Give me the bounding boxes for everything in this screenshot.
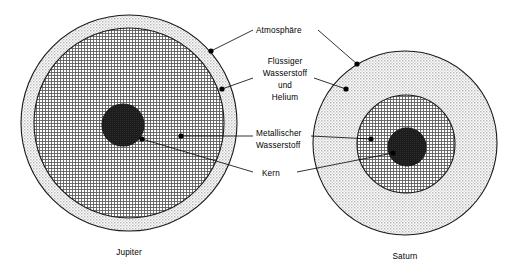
- callout-dot-core-jupiter: [139, 136, 144, 141]
- diagram-canvas: Jupiter Saturn: [0, 0, 514, 272]
- label-liquid-hydrogen-line-3: und: [278, 81, 292, 90]
- callout-dot-atmosphere-jupiter: [208, 48, 213, 53]
- callout-dot-atmosphere-saturn: [354, 61, 359, 66]
- planet-group-saturn[interactable]: Saturn: [313, 51, 497, 261]
- label-liquid-hydrogen-line-1: Flüssiger: [268, 57, 303, 66]
- planet-structure-diagram: Jupiter Saturn: [0, 0, 514, 272]
- callout-dot-liquid-hydrogen-saturn: [343, 86, 348, 91]
- leader-atmosphere-jupiter: [211, 30, 253, 51]
- leader-atmosphere-saturn: [318, 30, 357, 64]
- label-liquid-hydrogen-line-2: Wasserstoff: [263, 69, 308, 78]
- callout-labels: Atmosphäre Flüssiger Wasserstoff und Hel…: [256, 26, 308, 178]
- saturn-layer-core[interactable]: [388, 128, 426, 166]
- callout-dot-metallic-hydrogen-saturn: [368, 136, 373, 141]
- label-metallic-hydrogen-line-2: Wasserstoff: [256, 141, 301, 150]
- label-core: Kern: [262, 169, 280, 178]
- label-metallic-hydrogen-line-1: Metallischer: [256, 129, 302, 138]
- callout-dot-metallic-hydrogen-jupiter: [178, 133, 183, 138]
- callout-dot-core-saturn: [390, 150, 395, 155]
- jupiter-layer-core[interactable]: [102, 104, 144, 146]
- planet-label-saturn: Saturn: [392, 252, 417, 261]
- label-liquid-hydrogen-line-4: Helium: [272, 93, 298, 102]
- label-atmosphere: Atmosphäre: [256, 26, 302, 35]
- callout-dot-liquid-hydrogen-jupiter: [219, 86, 224, 91]
- planet-label-jupiter: Jupiter: [116, 248, 142, 257]
